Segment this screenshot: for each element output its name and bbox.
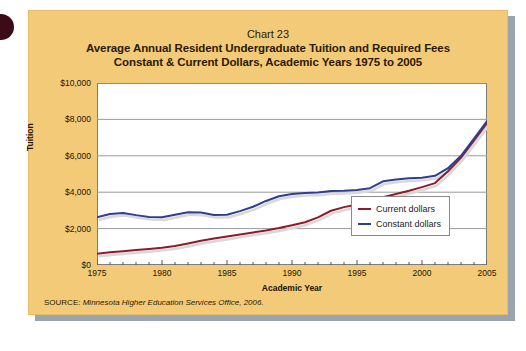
y-tick-label: $6,000 (65, 151, 91, 161)
chart-svg (97, 83, 487, 265)
x-tick-label: 1995 (348, 268, 367, 278)
source-label: SOURCE: (44, 298, 80, 307)
plot-wrapper (97, 83, 487, 265)
legend-swatch (358, 223, 371, 225)
chart-number: Chart 23 (29, 27, 507, 41)
source-note: SOURCE: Minnesota Higher Education Servi… (44, 298, 264, 307)
x-tick-label: 1990 (283, 268, 302, 278)
chart-title-block: Chart 23 Average Annual Resident Undergr… (29, 27, 507, 69)
chart-panel: Chart 23 Average Annual Resident Undergr… (28, 10, 508, 315)
x-tick-label: 1985 (218, 268, 237, 278)
chart-title-line-2: Constant & Current Dollars, Academic Yea… (29, 55, 507, 69)
y-axis-tick-labels: $0$2,000$4,000$6,000$8,000$10,000 (43, 83, 91, 265)
source-text: Minnesota Higher Education Services Offi… (83, 298, 264, 307)
y-axis-title: Tuition (25, 123, 35, 151)
y-tick-label: $2,000 (65, 224, 91, 234)
legend-swatch (358, 208, 371, 210)
chart-title-line-1: Average Annual Resident Undergraduate Tu… (29, 41, 507, 55)
decorative-corner-dot (0, 14, 14, 40)
x-tick-label: 1980 (153, 268, 172, 278)
x-axis-title: Academic Year (97, 283, 487, 293)
x-tick-label: 2005 (478, 268, 497, 278)
legend-item: Current dollars (358, 201, 441, 216)
x-tick-label: 1975 (88, 268, 107, 278)
legend-label: Constant dollars (376, 219, 441, 229)
series-shadow (99, 126, 487, 257)
y-tick-label: $8,000 (65, 114, 91, 124)
legend-item: Constant dollars (358, 216, 441, 231)
legend-label: Current dollars (376, 204, 435, 214)
y-tick-label: $4,000 (65, 187, 91, 197)
x-tick-label: 2000 (413, 268, 432, 278)
x-axis-tick-labels: 1975198019851990199520002005 (97, 268, 487, 282)
chart-legend: Current dollarsConstant dollars (351, 196, 450, 236)
y-tick-label: $10,000 (60, 78, 91, 88)
